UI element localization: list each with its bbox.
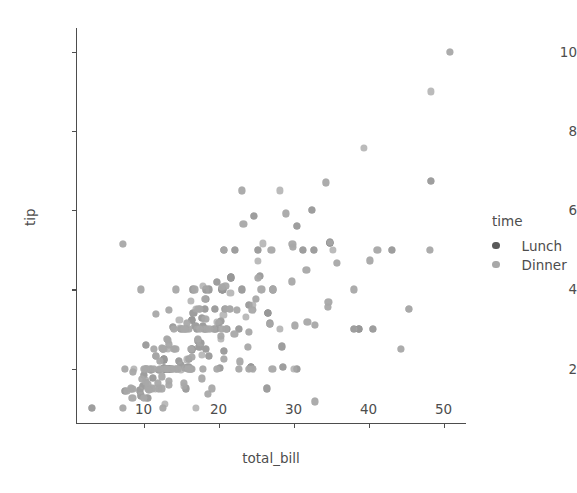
data-point-dinner bbox=[199, 375, 206, 382]
y-tick-label: 10 bbox=[511, 44, 577, 60]
data-point-dinner bbox=[166, 306, 173, 313]
data-point-dinner bbox=[426, 246, 433, 253]
data-point-dinner bbox=[264, 309, 271, 316]
x-axis-label: total_bill bbox=[242, 450, 299, 466]
data-point-dinner bbox=[291, 322, 298, 329]
data-point-dinner bbox=[191, 286, 198, 293]
data-point-dinner bbox=[226, 306, 233, 313]
data-point-dinner bbox=[329, 246, 336, 253]
data-point-dinner bbox=[334, 259, 341, 266]
data-point-dinner bbox=[369, 325, 376, 332]
data-point-dinner bbox=[227, 289, 234, 296]
data-point-dinner bbox=[239, 187, 246, 194]
data-point-dinner bbox=[245, 343, 252, 350]
legend-entries: LunchDinner bbox=[492, 236, 567, 274]
x-tick-label: 30 bbox=[285, 401, 302, 417]
data-point-dinner bbox=[176, 316, 183, 323]
data-point-dinner bbox=[249, 306, 256, 313]
y-tick-label: 4 bbox=[511, 281, 577, 297]
data-point-dinner bbox=[231, 330, 238, 337]
data-point-dinner bbox=[322, 179, 329, 186]
data-point-dinner bbox=[299, 246, 306, 253]
data-point-dinner bbox=[238, 286, 245, 293]
data-point-dinner bbox=[159, 405, 166, 412]
data-point-dinner bbox=[270, 286, 277, 293]
data-point-dinner bbox=[203, 345, 210, 352]
y-tick-label: 2 bbox=[511, 361, 577, 377]
data-point-dinner bbox=[293, 222, 300, 229]
data-point-dinner bbox=[243, 313, 250, 320]
data-point-dinner bbox=[188, 353, 195, 360]
data-point-dinner bbox=[236, 358, 243, 365]
data-point-dinner bbox=[166, 382, 173, 389]
legend-item-dinner[interactable]: Dinner bbox=[492, 255, 567, 274]
data-point-dinner bbox=[142, 341, 149, 348]
data-point-dinner bbox=[119, 240, 126, 247]
legend-label: Dinner bbox=[522, 257, 567, 273]
data-point-dinner bbox=[310, 246, 317, 253]
data-point-dinner bbox=[146, 386, 153, 393]
data-point-dinner bbox=[205, 390, 212, 397]
data-point-dinner bbox=[220, 347, 227, 354]
data-points-layer bbox=[76, 28, 466, 424]
data-point-dinner bbox=[205, 286, 212, 293]
data-point-dinner bbox=[374, 246, 381, 253]
plot-axes bbox=[76, 28, 466, 424]
data-point-dinner bbox=[199, 365, 206, 372]
data-point-dinner bbox=[121, 365, 128, 372]
data-point-dinner bbox=[232, 246, 239, 253]
legend-label: Lunch bbox=[522, 238, 562, 254]
data-point-dinner bbox=[152, 310, 159, 317]
data-point-dinner bbox=[288, 278, 295, 285]
data-point-dinner bbox=[361, 144, 368, 151]
data-point-dinner bbox=[88, 405, 95, 412]
data-point-dinner bbox=[156, 357, 163, 364]
scatter-plot-figure: 246810 1020304050 tip total_bill time Lu… bbox=[0, 0, 577, 493]
data-point-dinner bbox=[170, 325, 177, 332]
data-point-dinner bbox=[427, 88, 434, 95]
data-point-dinner bbox=[240, 220, 247, 227]
legend: time LunchDinner bbox=[492, 213, 567, 274]
data-point-dinner bbox=[150, 345, 157, 352]
y-axis-label-wrap: tip bbox=[22, 226, 40, 242]
data-point-dinner bbox=[235, 365, 242, 372]
data-point-dinner bbox=[279, 363, 286, 370]
legend-item-lunch[interactable]: Lunch bbox=[492, 236, 567, 255]
data-point-dinner bbox=[246, 329, 253, 336]
data-point-dinner bbox=[276, 325, 283, 332]
data-point-dinner bbox=[252, 296, 259, 303]
x-tick-label: 20 bbox=[210, 401, 227, 417]
data-point-dinner bbox=[304, 318, 311, 325]
data-point-dinner bbox=[388, 246, 395, 253]
data-point-dinner bbox=[250, 213, 257, 220]
y-axis-label: tip bbox=[22, 208, 38, 226]
data-point-dinner bbox=[255, 258, 262, 265]
data-point-dinner bbox=[123, 387, 130, 394]
data-point-dinner bbox=[311, 398, 318, 405]
data-point-dinner bbox=[255, 246, 262, 253]
data-point-dinner bbox=[397, 345, 404, 352]
data-point-dinner bbox=[259, 240, 266, 247]
data-point-dinner bbox=[211, 305, 218, 312]
data-point-dinner bbox=[158, 373, 165, 380]
data-point-dinner bbox=[276, 187, 283, 194]
data-point-dinner bbox=[405, 306, 412, 313]
data-point-dinner bbox=[205, 353, 212, 360]
data-point-dinner bbox=[366, 257, 373, 264]
data-point-dinner bbox=[312, 321, 319, 328]
data-point-dinner bbox=[187, 297, 194, 304]
data-point-dinner bbox=[228, 274, 235, 281]
data-point-dinner bbox=[303, 266, 310, 273]
x-tick-label: 50 bbox=[435, 401, 452, 417]
data-point-dinner bbox=[172, 286, 179, 293]
data-point-dinner bbox=[268, 246, 275, 253]
legend-marker-icon bbox=[492, 242, 500, 250]
legend-marker-icon bbox=[492, 261, 500, 269]
data-point-dinner bbox=[263, 385, 270, 392]
data-point-dinner bbox=[355, 325, 362, 332]
data-point-dinner bbox=[137, 286, 144, 293]
data-point-dinner bbox=[283, 210, 290, 217]
data-point-dinner bbox=[427, 178, 434, 185]
data-point-dinner bbox=[220, 246, 227, 253]
legend-title: time bbox=[492, 213, 567, 229]
